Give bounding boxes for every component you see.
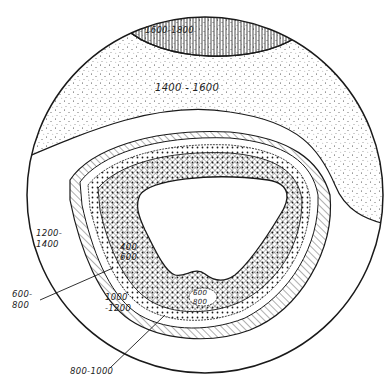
- label-1000-1200-b: -1200: [105, 303, 131, 313]
- contour-diagram: 1600-1800 1400 - 1600 1200- 1400 1000 -1…: [0, 0, 392, 385]
- label-800-1000: 800-1000: [70, 366, 113, 376]
- label-island: 600: [193, 289, 208, 297]
- label-1600-1800: 1600-1800: [145, 25, 194, 35]
- label-island-b: 800: [193, 298, 208, 306]
- label-600-800-b: 800: [12, 300, 29, 310]
- label-600-800: 600-: [12, 289, 33, 299]
- label-1400-1600: 1400 - 1600: [155, 82, 219, 93]
- label-1000-1200: 1000: [105, 292, 128, 302]
- label-400-600: 400: [120, 242, 137, 252]
- label-1200-1400-b: 1400: [36, 239, 59, 249]
- label-400-600-b: 600: [120, 252, 137, 262]
- label-1200-1400: 1200-: [36, 228, 62, 238]
